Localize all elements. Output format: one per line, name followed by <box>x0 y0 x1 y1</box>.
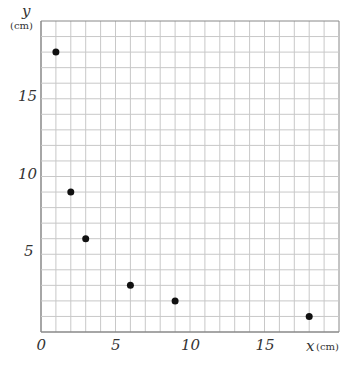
x-tick-label: 0 <box>37 336 47 354</box>
x-tick-label: 10 <box>181 336 200 354</box>
y-tick-label: 10 <box>18 165 37 183</box>
chart: y (cm) x (cm) 05101551015 <box>0 0 363 371</box>
y-axis-label: y <box>22 2 30 20</box>
data-point <box>306 313 313 320</box>
plot-area <box>0 0 363 371</box>
data-point <box>67 189 74 196</box>
y-tick-label: 15 <box>18 87 37 105</box>
data-point <box>127 282 134 289</box>
x-tick-label: 15 <box>256 336 275 354</box>
x-axis-label: x <box>306 337 314 355</box>
data-point <box>172 297 179 304</box>
x-tick-label: 5 <box>111 336 121 354</box>
y-tick-label: 5 <box>24 242 34 260</box>
data-point <box>52 49 59 56</box>
y-axis-unit: (cm) <box>10 20 33 31</box>
data-point <box>82 235 89 242</box>
x-axis-unit: (cm) <box>316 341 339 352</box>
